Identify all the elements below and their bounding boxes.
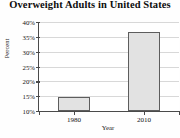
- plot-area: 10%15%20%25%30%35%40%19802010: [38, 22, 179, 112]
- y-tick-mark: [36, 96, 40, 97]
- y-tick-label: 15%: [23, 93, 35, 100]
- y-tick-mark: [36, 67, 40, 68]
- x-tick-mark: [39, 111, 40, 115]
- x-tick-mark: [74, 111, 75, 115]
- y-tick-mark: [36, 81, 40, 82]
- x-tick-label: 1980: [67, 116, 81, 124]
- chart-figure: Overweight Adults in United States Perce…: [0, 0, 180, 138]
- bar-2010: [128, 32, 160, 111]
- x-tick-mark: [144, 111, 145, 115]
- y-tick-mark: [36, 37, 40, 38]
- y-axis-label: Percent: [3, 25, 10, 73]
- bar-1980: [58, 97, 90, 111]
- y-tick-label: 35%: [23, 33, 35, 40]
- x-tick-label: 2010: [137, 116, 151, 124]
- y-tick-mark: [36, 22, 40, 23]
- y-tick-label: 20%: [23, 78, 35, 85]
- y-tick-label: 30%: [23, 48, 35, 55]
- x-axis-label: Year: [38, 124, 178, 131]
- y-tick-mark: [36, 52, 40, 53]
- chart-title: Overweight Adults in United States: [0, 0, 180, 10]
- y-tick-label: 10%: [23, 108, 35, 115]
- gridline: [39, 22, 179, 23]
- x-tick-mark: [179, 111, 180, 115]
- y-tick-label: 40%: [23, 19, 35, 26]
- y-tick-label: 25%: [23, 63, 35, 70]
